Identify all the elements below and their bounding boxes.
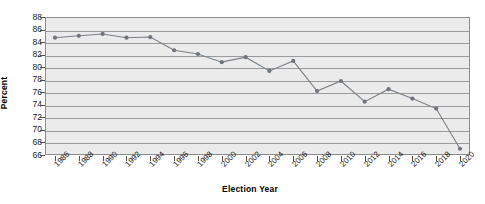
data-point-marker: 1994: 84.8 xyxy=(148,35,152,39)
y-axis-tick-labels: 888684828078767472706866 xyxy=(20,0,42,204)
data-point-marker: 1998: 82.1 xyxy=(196,52,200,56)
data-point-marker: 2010: 77.8 xyxy=(339,79,343,83)
data-point-marker: 2018: 73.4 xyxy=(434,106,438,110)
x-axis-title: Election Year xyxy=(30,184,470,194)
data-point-marker: 2004: 79.4 xyxy=(267,69,271,73)
data-point-marker: 1992: 84.7 xyxy=(124,36,128,40)
data-series-layer: 1986: 84.71988: 851990: 85.31992: 84.719… xyxy=(45,17,470,155)
y-axis-title: Percent xyxy=(0,48,9,138)
data-point-marker: 2020: 67 xyxy=(458,147,462,151)
data-point-marker: 2002: 81.6 xyxy=(243,55,247,59)
data-point-marker: 1988: 85 xyxy=(77,34,81,38)
data-point-marker: 1990: 85.3 xyxy=(101,32,105,36)
line-chart-figure: Percent 888684828078767472706866 1986: 8… xyxy=(0,0,485,204)
y-tick-mark xyxy=(40,155,45,156)
data-point-marker: 2008: 76.2 xyxy=(315,89,319,93)
data-point-marker: 2000: 80.8 xyxy=(220,60,224,64)
data-point-marker: 2012: 74.5 xyxy=(363,100,367,104)
data-point-marker: 1996: 82.7 xyxy=(172,48,176,52)
data-point-marker: 2014: 76.5 xyxy=(386,87,390,91)
series-line xyxy=(55,34,460,149)
data-point-marker: 2006: 81 xyxy=(291,59,295,63)
data-point-marker: 2016: 75 xyxy=(410,96,414,100)
data-point-marker: 1986: 84.7 xyxy=(53,36,57,40)
